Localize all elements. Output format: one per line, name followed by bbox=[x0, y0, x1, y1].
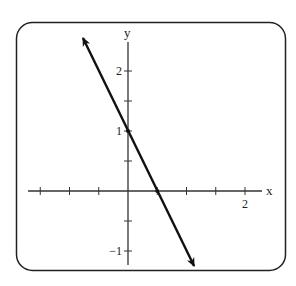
y-axis-label: y bbox=[124, 25, 131, 40]
y-tick-label: 1 bbox=[116, 124, 122, 138]
y-tick-label: −1 bbox=[109, 244, 122, 258]
plot-frame bbox=[17, 23, 286, 271]
x-axis-label: x bbox=[266, 183, 273, 198]
y-tick-label: 2 bbox=[116, 64, 122, 78]
x-tick-label: 2 bbox=[242, 197, 248, 211]
intercept-point bbox=[126, 129, 130, 133]
graph-figure: xy221−1 bbox=[0, 0, 296, 286]
intercept-point bbox=[155, 189, 159, 193]
